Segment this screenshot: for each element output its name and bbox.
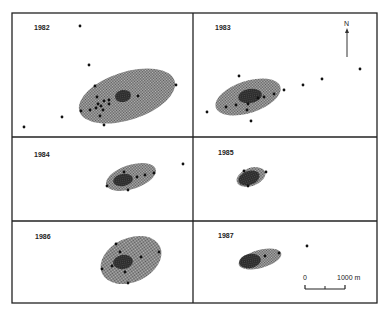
location-point <box>257 97 260 100</box>
year-label-1984: 1984 <box>34 151 50 158</box>
north-arrow-icon: N <box>344 20 349 57</box>
location-point <box>153 172 156 175</box>
location-point <box>263 96 266 99</box>
location-point <box>80 110 83 113</box>
location-point <box>88 64 91 67</box>
location-point <box>23 126 26 129</box>
scale-start-label: 0 <box>303 274 307 281</box>
location-point <box>106 185 109 188</box>
location-point <box>103 124 106 127</box>
location-point <box>108 103 111 106</box>
location-point <box>246 109 249 112</box>
location-point <box>302 84 305 87</box>
home-range-figure: 1982 1983 1984 1985 1986 1987 N 0 1000 m <box>0 0 388 314</box>
location-point <box>243 170 246 173</box>
location-point <box>96 96 99 99</box>
location-point <box>61 116 64 119</box>
location-point <box>306 245 309 248</box>
location-point <box>140 256 143 259</box>
scale-bar: 0 1000 m <box>303 274 361 289</box>
location-point <box>99 115 102 118</box>
location-point <box>250 120 253 123</box>
north-label: N <box>344 20 349 27</box>
location-point <box>123 171 126 174</box>
location-point <box>247 185 250 188</box>
location-point <box>102 109 105 112</box>
panels <box>23 25 362 294</box>
location-point <box>95 107 98 110</box>
year-label-1986: 1986 <box>35 233 51 240</box>
location-point <box>206 111 209 114</box>
location-point <box>119 251 122 254</box>
location-point <box>265 171 268 174</box>
location-point <box>127 189 130 192</box>
location-point <box>127 282 130 285</box>
location-point <box>103 100 106 103</box>
panel-1987 <box>236 245 308 274</box>
location-point <box>89 109 92 112</box>
location-point <box>225 106 228 109</box>
panel-1985 <box>234 163 268 190</box>
location-point <box>283 89 286 92</box>
location-point <box>100 105 103 108</box>
panel-1982 <box>23 25 182 135</box>
location-point <box>247 103 250 106</box>
location-point <box>111 265 114 268</box>
year-label-1987: 1987 <box>218 232 234 239</box>
location-point <box>182 163 185 166</box>
panel-grid <box>12 13 377 303</box>
year-label-1983: 1983 <box>215 24 231 31</box>
year-label-1982: 1982 <box>34 24 50 31</box>
location-point <box>238 75 241 78</box>
location-point <box>94 85 97 88</box>
location-point <box>235 104 238 107</box>
location-point <box>175 84 178 87</box>
scale-end-label: 1000 m <box>337 274 361 281</box>
location-point <box>115 243 118 246</box>
panel-1984 <box>103 158 185 197</box>
location-point <box>359 68 362 71</box>
location-point <box>278 252 281 255</box>
location-point <box>124 271 127 274</box>
location-point <box>158 251 161 254</box>
location-point <box>273 93 276 96</box>
location-point <box>136 176 139 179</box>
location-point <box>144 174 147 177</box>
location-point <box>108 99 111 102</box>
location-point <box>97 103 100 106</box>
year-label-1985: 1985 <box>218 149 234 156</box>
location-point <box>321 78 324 81</box>
location-point <box>101 268 104 271</box>
panel-1983 <box>206 68 362 123</box>
location-point <box>79 25 82 28</box>
location-point <box>137 95 140 98</box>
panel-1986 <box>93 227 170 294</box>
location-point <box>264 255 267 258</box>
